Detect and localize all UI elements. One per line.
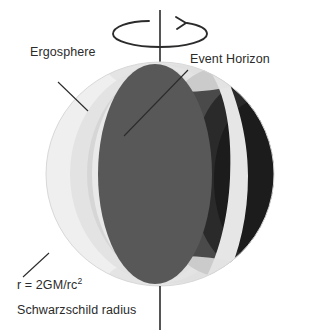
label-ergosphere: Ergosphere — [30, 45, 96, 59]
label-schwarzschild-radius: Schwarzschild radius — [17, 303, 136, 317]
formula-exponent: 2 — [77, 276, 82, 286]
leader-line-schwarzschild-radius — [23, 253, 49, 277]
black-hole-diagram-figure: Ergosphere Event Horizon r = 2GM/rc2 Sch… — [0, 0, 319, 335]
label-schwarzschild-formula: r = 2GM/rc2 — [17, 278, 82, 292]
black-hole-sphere — [46, 48, 302, 300]
label-event-horizon: Event Horizon — [190, 52, 270, 66]
formula-base: r = 2GM/rc — [17, 278, 77, 292]
event-horizon-region — [98, 64, 212, 284]
